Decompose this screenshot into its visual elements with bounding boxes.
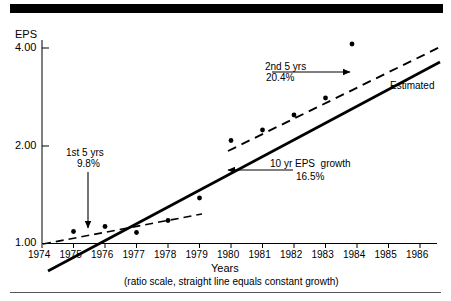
- data-point: [260, 128, 265, 133]
- data-points: [71, 42, 354, 235]
- chart-caption: (ratio scale, straight line equals const…: [124, 277, 339, 288]
- axis-lines: [42, 40, 437, 244]
- data-point: [166, 218, 171, 223]
- x-tick-label-1974: 1974: [28, 250, 50, 261]
- x-tick-label-1982: 1982: [280, 250, 302, 261]
- y-tick-label-2: 2.00: [15, 140, 36, 152]
- data-point: [229, 138, 234, 143]
- y-axis-ticks: [42, 48, 49, 244]
- annotation-first5-line2: 9.8%: [77, 159, 100, 170]
- x-axis-title: Years: [211, 263, 239, 275]
- annotation-second5-line1: 2nd 5 yrs: [265, 62, 306, 73]
- annotation-10yr-line1: 10 yr EPS growth: [270, 159, 351, 170]
- x-tick-label-1984: 1984: [343, 250, 365, 261]
- trendline-second5-dashed: [228, 47, 440, 151]
- x-tick-label-1977: 1977: [123, 250, 145, 261]
- data-point: [103, 224, 108, 229]
- x-tick-label-1975: 1975: [60, 250, 82, 261]
- data-point: [350, 42, 355, 47]
- x-tick-label-1985: 1985: [375, 250, 397, 261]
- data-point: [134, 230, 139, 235]
- x-tick-label-1983: 1983: [312, 250, 334, 261]
- trendline-first5-dashed: [43, 214, 202, 244]
- x-tick-label-1986: 1986: [406, 250, 428, 261]
- trendline-10yr-solid: [48, 62, 440, 271]
- annotation-second5-line2: 20.4%: [266, 73, 294, 84]
- data-point: [292, 113, 297, 118]
- data-point: [323, 96, 328, 101]
- x-tick-label-1976: 1976: [91, 250, 113, 261]
- x-tick-label-1978: 1978: [154, 250, 176, 261]
- annotation-first5-line1: 1st 5 yrs: [66, 148, 104, 159]
- annotation-10yr-line2: 16.5%: [296, 172, 324, 183]
- y-tick-label-4: 4.00: [15, 42, 36, 54]
- y-axis-title: EPS: [15, 29, 37, 41]
- x-tick-label-1979: 1979: [186, 250, 208, 261]
- x-tick-label-1981: 1981: [249, 250, 271, 261]
- data-point: [197, 196, 202, 201]
- y-tick-label-1: 1.00: [15, 237, 36, 249]
- chart-figure: EPS 4.00 2.00 1.00 1974 1975 1976 1977 1…: [0, 0, 451, 301]
- annotation-estimated: Estimated: [390, 81, 434, 92]
- x-tick-label-1980: 1980: [217, 250, 239, 261]
- data-point: [71, 229, 76, 234]
